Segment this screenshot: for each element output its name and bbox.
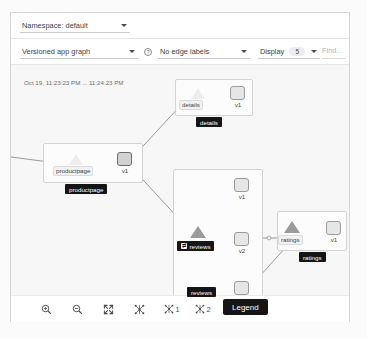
group-badge-productpage-label: productpage	[69, 186, 103, 193]
version-label-productpage-v1: v1	[115, 167, 135, 174]
graph-bottom-toolbar: reviews	[11, 295, 349, 322]
service-label-ratings: ratings	[278, 235, 303, 245]
graph-type-selector[interactable]: Versioned app graph	[20, 44, 138, 59]
service-triangle-icon	[191, 88, 205, 99]
edge-labels-label: No edge labels	[160, 47, 209, 56]
version-node-reviews-v1[interactable]	[234, 178, 249, 192]
version-node-reviews-v3[interactable]	[234, 281, 249, 295]
zoom-out-icon	[72, 304, 83, 315]
service-label-details: details	[179, 100, 203, 110]
namespace-selector-label: Namespace: default	[22, 21, 88, 30]
version-label-reviews-v2: v2	[232, 247, 252, 254]
fit-to-screen-button[interactable]	[99, 301, 117, 317]
chevron-down-icon	[121, 24, 127, 27]
chevron-down-icon	[311, 50, 317, 53]
version-label-reviews-v1: v1	[232, 193, 252, 200]
version-node-reviews-v2[interactable]	[234, 232, 249, 246]
version-node-details-v1[interactable]	[230, 86, 245, 100]
group-badge-productpage: productpage	[65, 184, 107, 194]
edge-labels-selector[interactable]: No edge labels	[158, 44, 250, 59]
layout-default-button[interactable]	[130, 301, 148, 317]
chevron-down-icon	[129, 50, 135, 53]
version-node-productpage-v1[interactable]	[117, 152, 132, 166]
layout-1-button[interactable]: 1	[160, 301, 184, 317]
graph-layout-icon	[134, 304, 145, 315]
group-details[interactable]: details v1	[175, 79, 253, 116]
floating-badge-reviews: reviews	[187, 287, 216, 297]
graph-canvas[interactable]: Oct 19, 11:23:23 PM ... 11:24:23 PM	[11, 65, 349, 295]
display-label: Display	[260, 47, 284, 56]
group-badge-ratings: ratings	[299, 252, 326, 262]
screen-root: Namespace: default Versioned app graph ?…	[0, 0, 367, 338]
chevron-down-icon	[241, 50, 247, 53]
layout-2-label: 2	[206, 305, 210, 314]
expand-arrows-icon	[103, 304, 114, 315]
group-reviews[interactable]: v1 v2 v3	[173, 169, 263, 295]
layout-2-button[interactable]: 2	[191, 301, 215, 317]
group-badge-details: details	[196, 117, 222, 127]
namespace-selector[interactable]: Namespace: default	[20, 18, 130, 33]
service-triangle-icon	[69, 154, 83, 165]
graph-layout-icon	[195, 304, 205, 314]
group-badge-ratings-label: ratings	[303, 254, 322, 261]
zoom-in-button[interactable]	[37, 301, 55, 317]
zoom-out-button[interactable]	[68, 301, 86, 317]
service-triangle-icon	[284, 221, 300, 233]
namespace-toolbar: Namespace: default	[11, 13, 349, 39]
version-label-details-v1: v1	[228, 101, 248, 108]
group-productpage[interactable]: productpage v1	[43, 143, 143, 183]
service-badge-reviews-label: reviews	[190, 243, 211, 250]
service-label-productpage: productpage	[53, 166, 93, 176]
graph-type-label: Versioned app graph	[22, 47, 90, 56]
group-badge-details-label: details	[200, 119, 218, 126]
service-badge-reviews: ⇄ reviews	[177, 241, 214, 251]
graph-controls-toolbar: Versioned app graph ? No edge labels Dis…	[11, 39, 349, 65]
layout-1-label: 1	[175, 305, 179, 314]
traffic-shift-icon: ⇄	[181, 243, 187, 249]
version-node-ratings-v1[interactable]	[326, 221, 341, 235]
zoom-in-icon	[41, 304, 52, 315]
display-count-badge: 5	[289, 47, 305, 56]
edge-midpoint	[267, 236, 271, 240]
service-triangle-icon	[190, 226, 206, 238]
graph-layout-icon	[164, 304, 174, 314]
question-circle-icon[interactable]: ?	[144, 48, 152, 56]
legend-button[interactable]: Legend	[223, 299, 268, 315]
version-label-ratings-v1: v1	[324, 236, 344, 243]
graph-card: Namespace: default Versioned app graph ?…	[10, 12, 350, 322]
find-input[interactable]: Find...	[322, 44, 346, 59]
group-ratings[interactable]: ratings v1	[277, 211, 347, 251]
display-selector[interactable]: Display 5	[258, 44, 320, 59]
